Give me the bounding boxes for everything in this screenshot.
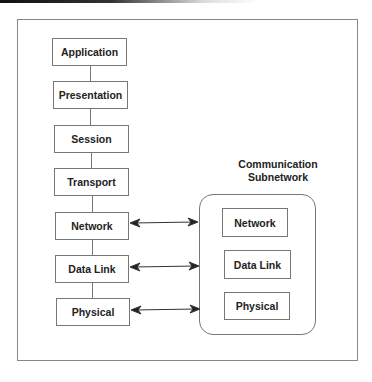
connection-arrows [0,0,372,382]
double-arrow-icon [130,262,199,271]
double-arrow-icon [130,218,198,227]
double-arrow-icon [131,305,200,314]
